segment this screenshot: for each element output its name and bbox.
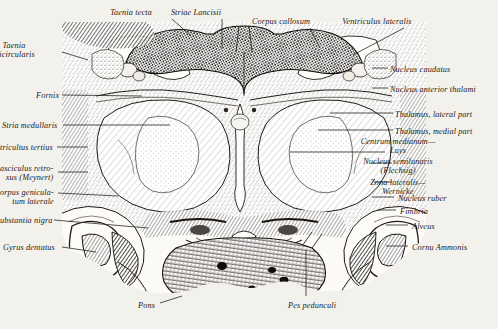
label-nucleus-caudatus: Nucleus caudatus	[390, 65, 450, 74]
label-nucleus-ruber: Nucleus ruber	[398, 194, 447, 203]
anatomical-plate: Taenia tectaStriae LancisiiCorpus callos…	[0, 0, 498, 329]
label-striae-lancisii: Striae Lancisii	[171, 8, 221, 17]
label-stria-medullaris: Stria medullaris	[2, 121, 57, 130]
label-corpus-geniculatum-laterale: orpus genicula- tum laterale	[0, 188, 54, 207]
label-thalamus-lateral-part: Thalamus, lateral part	[395, 110, 472, 119]
label-nucleus-anterior-thalami: Nucleus anterior thalami	[390, 85, 476, 94]
label-substantia-nigra: ubstantia nigra	[0, 216, 53, 225]
label-centrum-medianum-luys: Centrum medianum— Luys	[361, 137, 436, 156]
label-ventriculus-lateralis: Ventriculus lateralis	[342, 17, 411, 26]
label-pons: Pons	[138, 301, 155, 310]
label-fasciculus-retroflexus: asciculus retro- xus (Meynert)	[0, 164, 53, 183]
label-alveus: Alveus	[412, 222, 435, 231]
label-corpus-callosum: Corpus callosum	[252, 17, 310, 26]
label-cornu-ammonis: Cornu Ammonis	[412, 243, 467, 252]
label-taenia-tecta: Taenia tecta	[110, 8, 152, 17]
leader-pons	[160, 296, 182, 303]
label-taenia-semicircularis: Taenia micircularis	[0, 41, 35, 60]
label-pes-pedunculi: Pes pedunculi	[288, 301, 336, 310]
label-fornix: Fornix	[36, 91, 59, 100]
label-ventriculus-tertius: tricultus tertius	[0, 143, 53, 152]
label-nucleus-semilunaris-flechsig: Nucleus semilunaris (Flechsig)	[363, 157, 433, 176]
label-gyrus-dentatus: Gyrus dentatus	[3, 243, 55, 252]
label-fimbria: Fimbria	[400, 207, 428, 216]
label-thalamus-medial-part: Thalamus, medial part	[395, 127, 473, 136]
